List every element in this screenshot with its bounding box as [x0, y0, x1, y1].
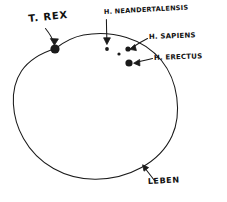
- unlabeled-dot: [117, 52, 120, 55]
- sapiens-dot: [125, 46, 130, 51]
- neandertalensis-dot: [105, 47, 109, 51]
- sketch-drawing-layer: [0, 0, 227, 202]
- erectus-dot: [125, 59, 132, 66]
- trex-arrowhead-icon: [50, 39, 58, 46]
- sketch-canvas: T. REX H. NEANDERTALENSIS H. SAPIENS H. …: [0, 0, 227, 202]
- label-leben: LEBEN: [148, 176, 180, 186]
- leben-arrowhead-icon: [143, 165, 149, 171]
- sapiens-arrowhead-icon: [130, 45, 137, 51]
- erectus-arrowhead-icon: [134, 60, 140, 66]
- neandertalensis-arrow-line: [106, 20, 107, 41]
- trex-dot: [50, 44, 59, 53]
- neandertalensis-arrowhead-icon: [104, 38, 111, 45]
